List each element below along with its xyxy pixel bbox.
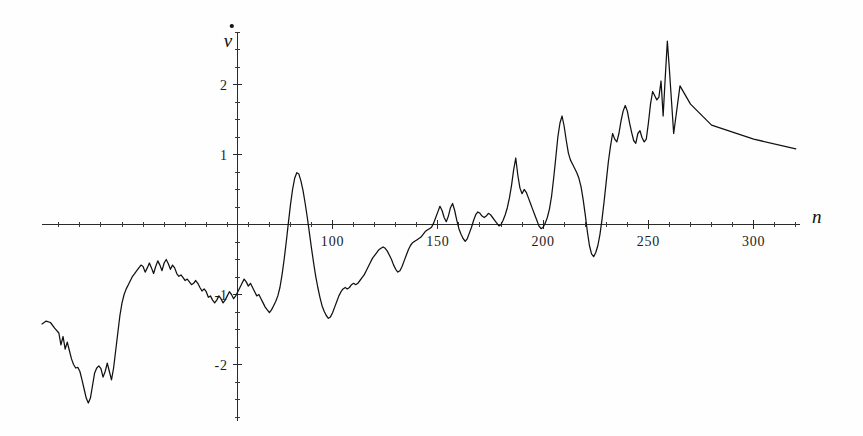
y-tick-label: -2 — [215, 358, 228, 373]
x-tick-label: 300 — [742, 234, 765, 249]
x-tick-label: 250 — [637, 234, 660, 249]
figure-container: 100150200250300 -2-112 n v — [0, 0, 863, 436]
y-axis-dot-accent — [230, 24, 234, 28]
x-tick-label: 150 — [426, 234, 449, 249]
y-axis-title: v — [224, 30, 233, 51]
x-tick-label: 200 — [531, 234, 554, 249]
x-axis-tick-labels: 100150200250300 — [321, 234, 766, 249]
chart-plot: 100150200250300 -2-112 n v — [0, 0, 863, 436]
data-series-line — [42, 41, 796, 403]
x-axis-title: n — [812, 206, 822, 227]
y-tick-label: 1 — [220, 148, 228, 163]
x-tick-label: 100 — [321, 234, 344, 249]
y-tick-label: 2 — [220, 78, 228, 93]
